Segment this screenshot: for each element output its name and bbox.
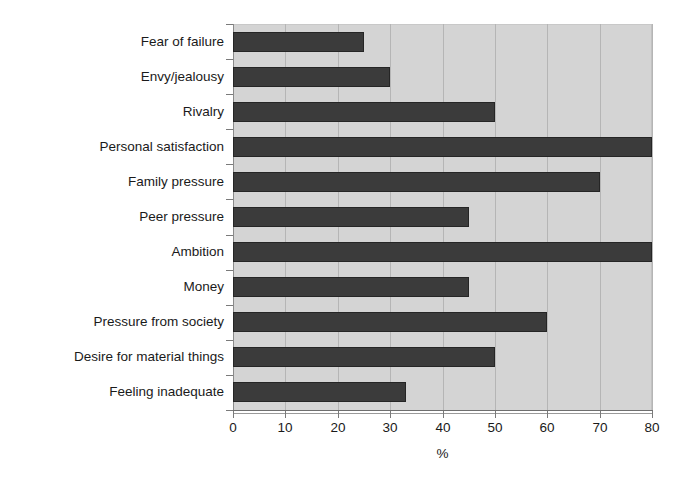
y-tick: [226, 410, 233, 411]
x-tick-label-10: 10: [265, 420, 305, 436]
y-tick: [226, 94, 233, 95]
x-tick-label-80: 80: [632, 420, 672, 436]
x-tick-70: [600, 411, 601, 418]
x-tick-label-40: 40: [423, 420, 463, 436]
x-axis-title: %: [233, 446, 652, 461]
y-axis-label: Pressure from society: [0, 315, 224, 329]
bar-chart: Fear of failureEnvy/jealousyRivalryPerso…: [0, 0, 691, 488]
bar: [233, 382, 406, 402]
bar: [233, 102, 495, 122]
x-tick-30: [390, 411, 391, 418]
x-tick-label-30: 30: [370, 420, 410, 436]
gridline-80: [652, 24, 653, 410]
y-axis-label: Ambition: [0, 245, 224, 259]
x-tick-60: [547, 411, 548, 418]
gridline-60: [547, 24, 548, 410]
x-tick-label-60: 60: [527, 420, 567, 436]
x-tick-0: [233, 411, 234, 418]
bar: [233, 277, 469, 297]
gridline-70: [600, 24, 601, 410]
y-axis-label: Rivalry: [0, 105, 224, 119]
y-tick: [226, 24, 233, 25]
bar: [233, 67, 390, 87]
x-tick-label-20: 20: [318, 420, 358, 436]
y-axis-label: Peer pressure: [0, 210, 224, 224]
y-tick: [226, 340, 233, 341]
y-tick: [226, 164, 233, 165]
bar: [233, 312, 547, 332]
y-tick: [226, 59, 233, 60]
y-axis-label: Fear of failure: [0, 35, 224, 49]
bar: [233, 137, 652, 157]
bar: [233, 242, 652, 262]
y-axis-label: Family pressure: [0, 175, 224, 189]
y-axis-label: Envy/jealousy: [0, 70, 224, 84]
y-axis-label: Desire for material things: [0, 350, 224, 364]
y-axis-label: Personal satisfaction: [0, 140, 224, 154]
x-tick-40: [443, 411, 444, 418]
bar: [233, 172, 600, 192]
x-tick-label-50: 50: [475, 420, 515, 436]
bar: [233, 347, 495, 367]
y-tick: [226, 199, 233, 200]
x-tick-20: [338, 411, 339, 418]
y-axis-label: Feeling inadequate: [0, 385, 224, 399]
gridline-50: [495, 24, 496, 410]
bar: [233, 32, 364, 52]
y-axis-category-labels: Fear of failureEnvy/jealousyRivalryPerso…: [0, 24, 228, 410]
y-axis-label: Money: [0, 280, 224, 294]
y-tick: [226, 270, 233, 271]
x-tick-label-0: 0: [213, 420, 253, 436]
y-tick: [226, 129, 233, 130]
x-tick-10: [285, 411, 286, 418]
x-tick-80: [652, 411, 653, 418]
bar: [233, 207, 469, 227]
y-tick: [226, 375, 233, 376]
x-tick-label-70: 70: [580, 420, 620, 436]
y-tick: [226, 305, 233, 306]
y-tick: [226, 235, 233, 236]
x-tick-50: [495, 411, 496, 418]
